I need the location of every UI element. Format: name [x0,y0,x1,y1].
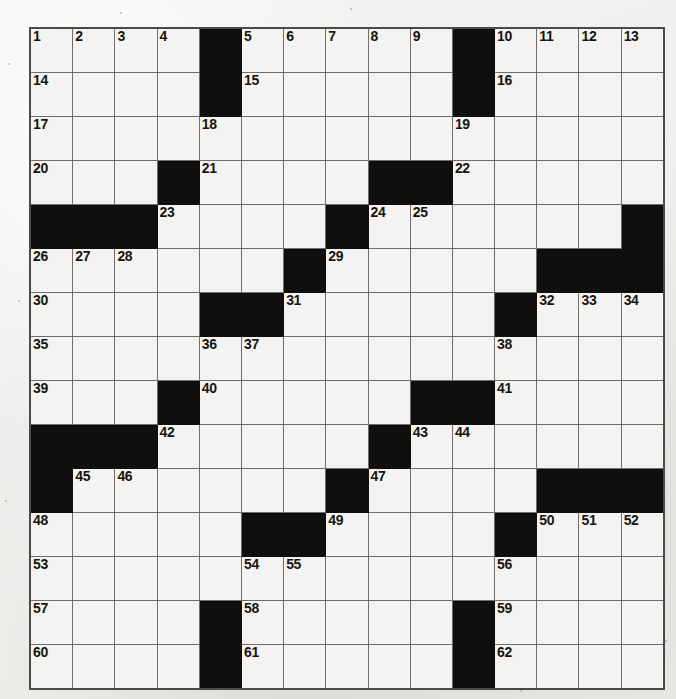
letter-cell[interactable] [537,205,579,249]
letter-cell[interactable] [115,381,157,425]
letter-cell[interactable] [284,337,326,381]
letter-cell[interactable] [241,425,283,469]
letter-cell[interactable] [157,73,199,117]
letter-cell[interactable] [115,645,157,690]
letter-cell[interactable]: 23 [157,205,199,249]
letter-cell[interactable] [115,161,157,205]
letter-cell[interactable]: 37 [241,337,283,381]
letter-cell[interactable]: 16 [495,73,537,117]
letter-cell[interactable]: 22 [452,161,494,205]
letter-cell[interactable] [410,117,452,161]
letter-cell[interactable]: 52 [621,513,664,557]
letter-cell[interactable]: 40 [199,381,241,425]
letter-cell[interactable]: 39 [30,381,73,425]
letter-cell[interactable] [495,469,537,513]
letter-cell[interactable] [115,337,157,381]
letter-cell[interactable] [284,381,326,425]
letter-cell[interactable]: 5 [241,28,283,73]
letter-cell[interactable]: 6 [284,28,326,73]
letter-cell[interactable] [537,601,579,645]
letter-cell[interactable] [73,601,115,645]
letter-cell[interactable]: 36 [199,337,241,381]
letter-cell[interactable]: 4 [157,28,199,73]
letter-cell[interactable] [284,205,326,249]
letter-cell[interactable] [73,337,115,381]
letter-cell[interactable] [495,205,537,249]
letter-cell[interactable]: 26 [30,249,73,293]
letter-cell[interactable] [368,645,410,690]
letter-cell[interactable] [368,381,410,425]
letter-cell[interactable]: 38 [495,337,537,381]
letter-cell[interactable]: 32 [537,293,579,337]
letter-cell[interactable] [452,293,494,337]
letter-cell[interactable] [410,73,452,117]
letter-cell[interactable]: 28 [115,249,157,293]
letter-cell[interactable] [621,425,664,469]
letter-cell[interactable] [326,381,368,425]
letter-cell[interactable] [579,645,621,690]
letter-cell[interactable] [452,513,494,557]
letter-cell[interactable] [621,601,664,645]
letter-cell[interactable] [579,73,621,117]
letter-cell[interactable] [579,161,621,205]
letter-cell[interactable] [157,293,199,337]
letter-cell[interactable] [495,249,537,293]
letter-cell[interactable] [326,293,368,337]
letter-cell[interactable] [621,337,664,381]
letter-cell[interactable] [284,161,326,205]
letter-cell[interactable] [73,513,115,557]
letter-cell[interactable]: 50 [537,513,579,557]
letter-cell[interactable]: 49 [326,513,368,557]
letter-cell[interactable] [73,161,115,205]
letter-cell[interactable] [495,117,537,161]
letter-cell[interactable]: 11 [537,28,579,73]
letter-cell[interactable]: 29 [326,249,368,293]
letter-cell[interactable] [368,513,410,557]
letter-cell[interactable] [326,161,368,205]
letter-cell[interactable] [157,117,199,161]
letter-cell[interactable]: 58 [241,601,283,645]
letter-cell[interactable] [579,117,621,161]
letter-cell[interactable] [368,601,410,645]
letter-cell[interactable] [621,161,664,205]
letter-cell[interactable]: 19 [452,117,494,161]
letter-cell[interactable] [621,557,664,601]
letter-cell[interactable] [621,645,664,690]
letter-cell[interactable]: 1 [30,28,73,73]
letter-cell[interactable] [241,161,283,205]
crossword-grid[interactable]: 1234567891011121314151617181920212223242… [29,27,665,690]
letter-cell[interactable] [537,557,579,601]
letter-cell[interactable] [537,117,579,161]
letter-cell[interactable]: 2 [73,28,115,73]
letter-cell[interactable] [579,425,621,469]
letter-cell[interactable]: 61 [241,645,283,690]
letter-cell[interactable] [326,601,368,645]
letter-cell[interactable] [115,601,157,645]
letter-cell[interactable] [199,425,241,469]
letter-cell[interactable] [410,557,452,601]
letter-cell[interactable] [326,425,368,469]
letter-cell[interactable]: 24 [368,205,410,249]
letter-cell[interactable] [495,425,537,469]
letter-cell[interactable] [157,601,199,645]
letter-cell[interactable] [157,645,199,690]
letter-cell[interactable] [73,293,115,337]
letter-cell[interactable] [115,293,157,337]
letter-cell[interactable]: 8 [368,28,410,73]
letter-cell[interactable]: 41 [495,381,537,425]
letter-cell[interactable] [326,557,368,601]
letter-cell[interactable] [621,381,664,425]
letter-cell[interactable] [326,117,368,161]
letter-cell[interactable] [241,469,283,513]
letter-cell[interactable] [199,513,241,557]
letter-cell[interactable]: 20 [30,161,73,205]
letter-cell[interactable] [452,249,494,293]
letter-cell[interactable] [199,469,241,513]
letter-cell[interactable]: 25 [410,205,452,249]
letter-cell[interactable] [368,73,410,117]
letter-cell[interactable] [284,73,326,117]
letter-cell[interactable] [537,73,579,117]
letter-cell[interactable]: 34 [621,293,664,337]
letter-cell[interactable]: 55 [284,557,326,601]
letter-cell[interactable]: 10 [495,28,537,73]
